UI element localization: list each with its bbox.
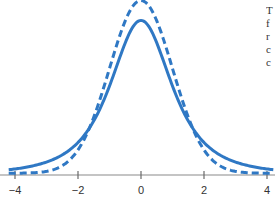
- normal-distribution-curve: [9, 1, 274, 174]
- x-tick-label: 4: [264, 184, 270, 196]
- caption-line: r: [266, 30, 280, 43]
- x-tick-label: 0: [138, 184, 144, 196]
- caption-line: c: [266, 43, 280, 56]
- x-tick-label: −4: [9, 184, 22, 196]
- side-caption-text: T f r c c: [266, 4, 280, 69]
- x-tick-label: −2: [72, 184, 85, 196]
- caption-line: f: [266, 17, 280, 30]
- x-tick-label: 2: [201, 184, 207, 196]
- t-distribution-curve: [9, 20, 274, 169]
- caption-line: c: [266, 56, 280, 69]
- caption-line: T: [266, 4, 280, 17]
- density-chart: −4−2024: [0, 0, 280, 205]
